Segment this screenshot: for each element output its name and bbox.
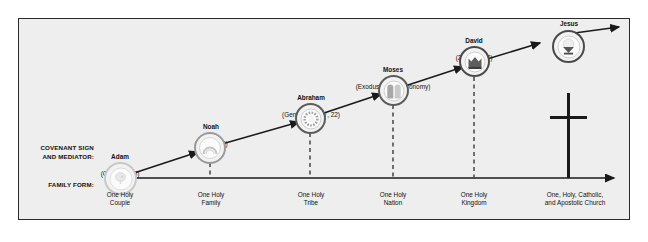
node-name-noah: Noah bbox=[164, 123, 258, 131]
family-form-noah: One Holy Family bbox=[164, 191, 258, 208]
node-david[interactable] bbox=[459, 46, 490, 77]
node-name-david: David bbox=[427, 37, 521, 45]
family-form-jesus: One, Holy, Catholic, and Apostolic Churc… bbox=[520, 191, 630, 208]
crown-icon bbox=[464, 51, 485, 72]
family-form-adam: One Holy Couple bbox=[72, 191, 168, 208]
family-form-moses: One Holy Nation bbox=[346, 191, 440, 208]
family-form-abraham: One Holy Tribe bbox=[264, 191, 358, 208]
diagram-stage: COVENANT SIGN AND MEDIATOR: FAMILY FORM:… bbox=[0, 0, 648, 242]
tree-icon bbox=[109, 167, 132, 190]
node-jesus[interactable] bbox=[552, 30, 585, 63]
chalice-icon bbox=[557, 35, 580, 58]
node-name-jesus: Jesus bbox=[522, 20, 616, 28]
node-noah[interactable] bbox=[194, 132, 226, 164]
node-moses[interactable] bbox=[378, 75, 409, 106]
family-form-david: One Holy Kingdom bbox=[427, 191, 521, 208]
node-abraham[interactable] bbox=[295, 103, 326, 134]
circumcision-knife-icon bbox=[300, 108, 321, 129]
rainbow-icon bbox=[199, 137, 221, 159]
node-name-adam: Adam bbox=[72, 153, 168, 161]
cross-crossbar-icon bbox=[550, 116, 587, 119]
cross-icon bbox=[567, 93, 570, 178]
stone-tablets-icon bbox=[383, 80, 404, 101]
diagram-page: COVENANT SIGN AND MEDIATOR: FAMILY FORM:… bbox=[0, 0, 648, 242]
